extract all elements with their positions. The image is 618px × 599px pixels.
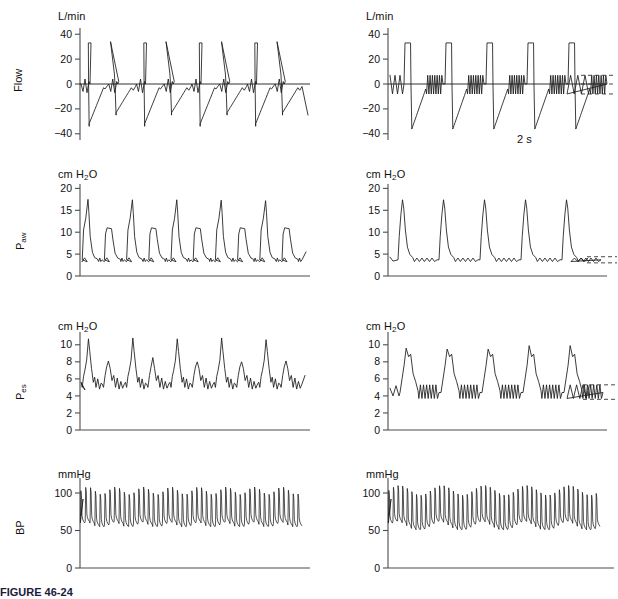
panel-pes-right: 1086420 (308, 312, 618, 460)
pes-right-plot: 1086420 (308, 312, 618, 460)
svg-text:8: 8 (374, 355, 380, 367)
flow-right-plot: 40200−20−40 (308, 0, 618, 160)
unit-label-pes-right: cm H2O (366, 320, 405, 334)
time-scale-label: 2 s (517, 133, 532, 145)
axis-label-bp: BP (14, 520, 26, 535)
svg-text:0: 0 (374, 562, 380, 574)
axis-label-pes: Pes (14, 384, 28, 400)
svg-text:0: 0 (66, 562, 72, 574)
svg-text:50: 50 (368, 524, 380, 536)
unit-label-pes-left: cm H2O (58, 320, 97, 334)
unit-label-flow-left: L/min (58, 10, 85, 22)
svg-text:8: 8 (66, 355, 72, 367)
unit-label-flow-right: L/min (366, 10, 393, 22)
pes-left-plot: 1086420 (0, 312, 310, 460)
unit-label-bp-right: mmHg (366, 468, 399, 480)
svg-text:2: 2 (374, 407, 380, 419)
svg-text:15: 15 (368, 204, 380, 216)
svg-text:0: 0 (374, 424, 380, 436)
svg-text:100: 100 (54, 487, 72, 499)
flow-left-plot: 40200−20−40 (0, 0, 310, 160)
svg-text:15: 15 (60, 204, 72, 216)
svg-text:10: 10 (60, 338, 72, 350)
svg-text:−20: −20 (54, 102, 72, 114)
svg-text:−20: −20 (362, 102, 380, 114)
svg-text:10: 10 (368, 226, 380, 238)
svg-text:40: 40 (60, 28, 72, 40)
svg-text:−40: −40 (54, 127, 72, 139)
paw-right-plot: 20151050 (308, 160, 618, 312)
axis-label-paw-sub: aw (19, 232, 28, 242)
svg-text:20: 20 (60, 53, 72, 65)
svg-text:0: 0 (66, 270, 72, 282)
svg-text:0: 0 (66, 424, 72, 436)
svg-text:50: 50 (60, 524, 72, 536)
svg-text:4: 4 (374, 390, 380, 402)
panel-bp-left: 100500 (0, 460, 310, 586)
svg-text:100: 100 (362, 487, 380, 499)
svg-text:10: 10 (60, 226, 72, 238)
svg-text:4: 4 (66, 390, 72, 402)
bp-left-plot: 100500 (0, 460, 310, 586)
axis-label-paw: Paw (14, 232, 28, 250)
svg-text:−40: −40 (362, 127, 380, 139)
panel-flow-right: 40200−20−40 (308, 0, 618, 160)
panel-bp-right: 100500 (308, 460, 618, 586)
panel-paw-left: 20151050 (0, 160, 310, 312)
svg-text:0: 0 (374, 78, 380, 90)
svg-text:10: 10 (368, 338, 380, 350)
svg-text:6: 6 (374, 372, 380, 384)
panel-flow-left: 40200−20−40 (0, 0, 310, 160)
panel-paw-right: 20151050 (308, 160, 618, 312)
svg-text:20: 20 (368, 53, 380, 65)
bp-right-plot: 100500 (308, 460, 618, 586)
svg-text:5: 5 (66, 248, 72, 260)
svg-text:40: 40 (368, 28, 380, 40)
figure-caption: FIGURE 46-24 (0, 586, 618, 599)
svg-text:0: 0 (66, 78, 72, 90)
unit-label-paw-left: cm H2O (58, 168, 97, 182)
unit-label-bp-left: mmHg (58, 468, 91, 480)
svg-text:20: 20 (368, 182, 380, 194)
axis-label-pes-sub: es (19, 384, 28, 392)
panel-pes-left: 1086420 (0, 312, 310, 460)
svg-text:0: 0 (374, 270, 380, 282)
svg-text:2: 2 (66, 407, 72, 419)
axis-label-flow: Flow (12, 69, 24, 92)
svg-text:6: 6 (66, 372, 72, 384)
paw-left-plot: 20151050 (0, 160, 310, 312)
physiology-waveform-figure: 40200−20−40 Flow L/min 40200−20−40 L/min… (0, 0, 618, 599)
svg-text:5: 5 (374, 248, 380, 260)
svg-text:20: 20 (60, 182, 72, 194)
unit-label-paw-right: cm H2O (366, 168, 405, 182)
